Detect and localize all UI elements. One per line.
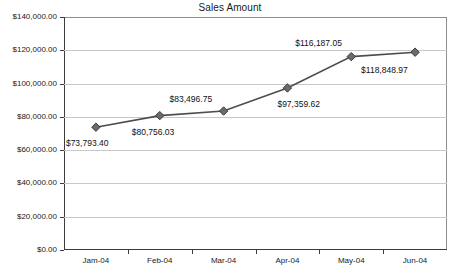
data-point-label: $80,756.03 <box>132 128 175 137</box>
data-point-marker <box>219 107 227 115</box>
x-tick-label: Apr-04 <box>275 257 299 265</box>
x-tick-mark <box>128 250 129 254</box>
y-tick-label: $140,000.00 <box>13 13 58 21</box>
x-tick-label: Feb-04 <box>147 257 172 265</box>
y-tick-label: $0.00 <box>37 246 57 254</box>
y-tick-mark <box>60 250 64 251</box>
data-point-label: $118,848.97 <box>361 66 408 75</box>
y-tick-label: $60,000.00 <box>17 146 57 154</box>
data-point-label: $116,187.05 <box>295 39 342 48</box>
y-tick-label: $40,000.00 <box>17 179 57 187</box>
x-tick-label: Jun-04 <box>403 257 427 265</box>
data-point-marker <box>156 111 164 119</box>
data-point-marker <box>283 84 291 92</box>
chart-title: Sales Amount <box>0 2 460 13</box>
y-tick-label: $80,000.00 <box>17 113 57 121</box>
x-tick-label: Mar-04 <box>211 257 236 265</box>
y-tick-label: $120,000.00 <box>13 46 58 54</box>
x-tick-mark <box>192 250 193 254</box>
plot-area: $0.00$20,000.00$40,000.00$60,000.00$80,0… <box>64 17 447 250</box>
x-tick-label: Jam-04 <box>83 257 110 265</box>
y-tick-label: $100,000.00 <box>13 80 58 88</box>
x-tick-mark <box>319 250 320 254</box>
x-tick-mark <box>256 250 257 254</box>
data-point-marker <box>347 52 355 60</box>
data-point-marker <box>92 123 100 131</box>
data-point-label: $97,359.62 <box>277 100 320 109</box>
x-tick-mark <box>383 250 384 254</box>
x-tick-label: May-04 <box>338 257 365 265</box>
y-tick-label: $20,000.00 <box>17 213 57 221</box>
data-point-label: $73,793.40 <box>66 139 109 148</box>
sales-amount-line-chart: Sales Amount $0.00$20,000.00$40,000.00$6… <box>0 0 460 279</box>
data-point-label: $83,496.75 <box>170 95 213 104</box>
data-point-marker <box>411 48 419 56</box>
series-line <box>96 52 415 127</box>
series-sales-amount <box>64 17 447 250</box>
